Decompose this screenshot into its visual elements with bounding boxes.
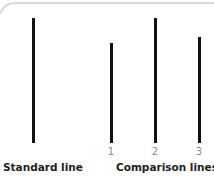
standard-line-label: Standard line (3, 161, 83, 173)
comparison-line-2 (154, 18, 157, 143)
comparison-lines-label: Comparison lines (116, 161, 214, 173)
comparison-number-3: 3 (196, 146, 202, 157)
standard-line (32, 18, 35, 143)
comparison-number-1: 1 (108, 146, 114, 157)
frame-border (0, 0, 214, 20)
comparison-line-1 (110, 43, 113, 143)
comparison-line-3 (198, 37, 201, 143)
comparison-number-2: 2 (152, 146, 158, 157)
